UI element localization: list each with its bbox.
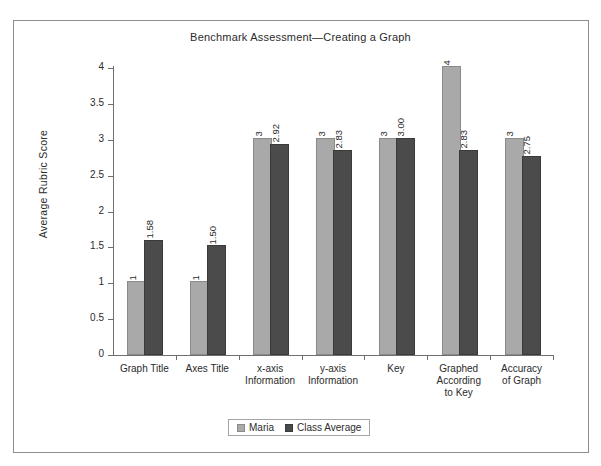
chart-legend: Maria Class Average <box>228 419 370 436</box>
bar-value-label: 2.75 <box>522 136 532 155</box>
x-axis-category-label: y-axisInformation <box>298 363 369 387</box>
bar: 2.75 <box>522 156 541 355</box>
bar-value-label: 2.83 <box>459 130 469 149</box>
x-axis-category-label: Accuracyof Graph <box>486 363 557 387</box>
legend-item-maria: Maria <box>237 422 274 433</box>
x-axis-category-label-line: Axes Title <box>172 363 243 375</box>
y-axis-tick-label: 2 <box>98 205 104 216</box>
x-axis-category-label-line: to Key <box>423 387 494 399</box>
bar-value-label: 1.50 <box>207 226 217 245</box>
bar: 2.83 <box>459 150 478 355</box>
y-axis-tick-label: 1 <box>98 276 104 287</box>
y-axis-title: Average Rubric Score <box>37 99 49 269</box>
legend-label: Maria <box>249 422 274 433</box>
x-axis-category-label-line: Graphed <box>423 363 494 375</box>
x-axis-category-label: Graph Title <box>109 363 180 375</box>
bar-value-label: 1 <box>127 275 137 280</box>
y-axis-tick-label: 0.5 <box>90 312 104 323</box>
y-axis-tick-label: 3 <box>98 133 104 144</box>
x-axis-category-label-line: y-axis <box>298 363 369 375</box>
bar-value-label: 3 <box>316 131 326 136</box>
x-axis-category-label: GraphedAccordingto Key <box>423 363 494 399</box>
chart-title: Benchmark Assessment—Creating a Graph <box>0 31 601 43</box>
x-axis-tick-mark <box>364 355 365 360</box>
plot-area: 11.5811.5032.9232.8333.0042.8332.75 <box>113 68 553 355</box>
x-axis-category-label-line: Information <box>298 375 369 387</box>
bar-value-label: 3.00 <box>396 118 406 137</box>
bar: 2.83 <box>333 150 352 355</box>
legend-label: Class Average <box>297 422 361 433</box>
legend-swatch-icon <box>285 424 293 432</box>
bar-value-label: 3 <box>379 131 389 136</box>
x-axis-tick-mark <box>427 355 428 360</box>
x-axis-tick-mark <box>553 355 554 360</box>
x-axis-category-label: x-axisInformation <box>235 363 306 387</box>
bar-value-label: 2.83 <box>333 130 343 149</box>
y-axis-tick-label: 2.5 <box>90 169 104 180</box>
bar: 1.50 <box>207 245 226 355</box>
bar: 2.92 <box>270 144 289 356</box>
legend-item-class-average: Class Average <box>285 422 361 433</box>
x-axis-category-label-line: Information <box>235 375 306 387</box>
x-axis-category-label-line: of Graph <box>486 375 557 387</box>
bar: 3.00 <box>396 138 415 355</box>
x-axis-category-label: Key <box>360 363 431 375</box>
x-axis-tick-mark <box>239 355 240 360</box>
y-axis-tick-mark <box>108 355 113 356</box>
legend-swatch-icon <box>237 424 245 432</box>
x-axis-category-label-line: Accuracy <box>486 363 557 375</box>
bar-value-label: 2.92 <box>270 124 280 143</box>
x-axis-line <box>113 355 553 356</box>
x-axis-category-label: Axes Title <box>172 363 243 375</box>
y-axis-tick-label: 3.5 <box>90 97 104 108</box>
x-axis-tick-mark <box>302 355 303 360</box>
bar-value-label: 3 <box>253 131 263 136</box>
x-axis-category-label-line: Graph Title <box>109 363 180 375</box>
y-axis-tick-label: 1.5 <box>90 240 104 251</box>
x-axis-tick-mark <box>176 355 177 360</box>
bar-value-label: 3 <box>505 131 515 136</box>
bar-value-label: 1 <box>190 275 200 280</box>
x-axis-tick-mark <box>490 355 491 360</box>
x-axis-category-label-line: According <box>423 375 494 387</box>
x-axis-category-label-line: x-axis <box>235 363 306 375</box>
bar: 1.58 <box>144 240 163 355</box>
x-axis-category-label-line: Key <box>360 363 431 375</box>
y-axis-tick-label: 0 <box>98 348 104 359</box>
bar-value-label: 1.58 <box>144 220 154 239</box>
bar-value-label: 4 <box>442 60 452 65</box>
y-axis-tick-label: 4 <box>98 61 104 72</box>
